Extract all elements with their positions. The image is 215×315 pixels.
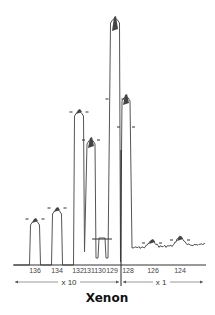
tick-label-128: 128 bbox=[122, 267, 134, 274]
spectrum-trace bbox=[14, 19, 205, 266]
scale-x1-range: x 1 bbox=[123, 278, 203, 287]
peak-level-ticks bbox=[26, 99, 191, 243]
scale-x1-label: x 1 bbox=[156, 278, 167, 287]
tick-label-124: 124 bbox=[174, 267, 186, 274]
peak-cap-134 bbox=[54, 207, 60, 212]
peak-cap-131 bbox=[88, 137, 94, 148]
peak-cap-129 bbox=[112, 16, 118, 31]
peak-cap-132 bbox=[76, 109, 82, 114]
mass-spectrum-chart: 136134132131130129128126124 x 10 x 1 Xen… bbox=[0, 0, 215, 315]
scale-x10-label: x 10 bbox=[61, 278, 77, 287]
tick-label-134: 134 bbox=[51, 267, 63, 274]
peak-caps bbox=[32, 16, 183, 244]
tick-label-130: 130 bbox=[94, 267, 106, 274]
chart-title: Xenon bbox=[86, 291, 128, 305]
tick-label-126: 126 bbox=[147, 267, 159, 274]
x-tick-labels: 136134132131130129128126124 bbox=[29, 267, 186, 274]
peak-cap-136 bbox=[32, 218, 38, 223]
scale-x10-range: x 10 bbox=[15, 278, 119, 287]
tick-label-129: 129 bbox=[106, 267, 118, 274]
tick-label-136: 136 bbox=[29, 267, 41, 274]
